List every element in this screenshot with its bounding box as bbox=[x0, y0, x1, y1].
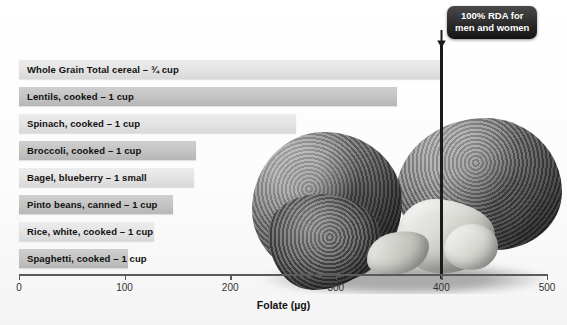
bar-label-6: Pinto beans, canned – 1 cup bbox=[27, 195, 157, 214]
x-tick bbox=[547, 274, 548, 280]
x-tick bbox=[19, 274, 20, 280]
rda-reference-line bbox=[440, 44, 443, 279]
folate-bar-chart-figure: Whole Grain Total cereal – ¾ cupLentils,… bbox=[0, 0, 567, 325]
bar-label-2: Lentils, cooked – 1 cup bbox=[27, 87, 134, 106]
x-tick bbox=[125, 274, 126, 280]
x-axis-line bbox=[19, 274, 547, 276]
bar-row: Broccoli, cooked – 1 cup bbox=[19, 141, 547, 160]
bar-row: Spaghetti, cooked – 1 cup bbox=[19, 249, 547, 268]
x-tick bbox=[230, 274, 231, 280]
x-axis-label-text: Folate (µg) bbox=[257, 299, 310, 311]
x-tick-label: 400 bbox=[433, 282, 450, 293]
x-tick-label: 200 bbox=[222, 282, 239, 293]
plot-area: Whole Grain Total cereal – ¾ cupLentils,… bbox=[19, 58, 547, 274]
x-tick-label: 500 bbox=[539, 282, 556, 293]
bar-label-8: Spaghetti, cooked – 1 cup bbox=[27, 249, 147, 268]
x-tick bbox=[336, 274, 337, 280]
x-tick-label: 300 bbox=[327, 282, 344, 293]
bar-label-4: Broccoli, cooked – 1 cup bbox=[27, 141, 141, 160]
bar-label-1: Whole Grain Total cereal – ¾ cup bbox=[27, 60, 179, 79]
x-axis-label: Folate (µg) bbox=[0, 299, 567, 311]
bar-row: Lentils, cooked – 1 cup bbox=[19, 87, 547, 106]
x-tick-label: 0 bbox=[16, 282, 22, 293]
bar-row: Pinto beans, canned – 1 cup bbox=[19, 195, 547, 214]
bar-row: Bagel, blueberry – 1 small bbox=[19, 168, 547, 187]
x-tick-label: 100 bbox=[116, 282, 133, 293]
bar-label-3: Spinach, cooked – 1 cup bbox=[27, 114, 140, 133]
bar-row: Whole Grain Total cereal – ¾ cup bbox=[19, 60, 547, 79]
bar-label-5: Bagel, blueberry – 1 small bbox=[27, 168, 147, 187]
rda-callout-label: 100% RDA for men and women bbox=[447, 6, 537, 39]
rda-callout-line-1: 100% RDA for bbox=[455, 10, 529, 22]
bar-row: Rice, white, cooked – 1 cup bbox=[19, 222, 547, 241]
bar-label-7: Rice, white, cooked – 1 cup bbox=[27, 222, 153, 241]
bar-row: Spinach, cooked – 1 cup bbox=[19, 114, 547, 133]
x-tick bbox=[441, 274, 442, 280]
rda-callout-line-2: men and women bbox=[455, 22, 529, 34]
